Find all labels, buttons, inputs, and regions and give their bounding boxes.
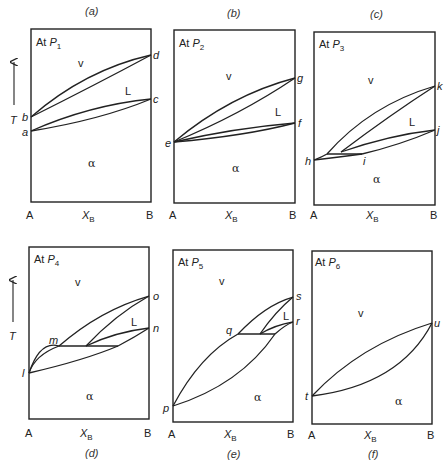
region-solid-alpha: α [254, 391, 262, 404]
axis-label-T: T [10, 114, 18, 126]
liquidus-curve [31, 99, 151, 131]
point-b: b [22, 111, 28, 123]
point-l: l [22, 367, 25, 379]
axis-label-A: A [308, 429, 316, 441]
axis-label-B: B [427, 429, 434, 441]
boiling-curve [341, 86, 435, 152]
point-d: d [153, 49, 160, 61]
point-i: i [363, 155, 366, 167]
region-vapor: v [78, 57, 84, 69]
panel-caption: (d) [85, 447, 99, 459]
region-vapor: v [368, 74, 374, 86]
region-liquid: L [409, 116, 415, 128]
point-p: p [162, 402, 169, 414]
panel-title: At P1 [36, 36, 62, 51]
region-vapor: v [226, 70, 232, 82]
region-vapor: v [358, 307, 364, 319]
liquidus-curve [174, 123, 295, 142]
point-c: c [153, 93, 159, 105]
axis-label-A: A [310, 209, 318, 221]
point-n: n [153, 322, 159, 334]
point-q: q [226, 324, 233, 336]
region-liquid: L [275, 106, 281, 118]
region-liquid: L [283, 310, 289, 322]
region-solid-alpha: α [373, 173, 381, 186]
point-e: e [165, 137, 171, 149]
axis-label-xb: XB [363, 429, 377, 444]
point-r: r [296, 315, 301, 327]
solidus-curve [31, 99, 151, 131]
axis-label-A: A [169, 209, 177, 221]
region-vapor: v [75, 276, 81, 288]
point-m: m [49, 334, 58, 346]
point-j: j [435, 124, 440, 136]
axis-label-T: T [9, 330, 17, 342]
region-solid-alpha: α [88, 157, 96, 170]
panel-title: At P2 [179, 37, 205, 52]
region-solid-alpha: α [86, 390, 94, 403]
panel-a: (a) At P1 v L α b a c d A XB B T [10, 5, 160, 224]
boiling-curve [86, 296, 149, 346]
panel-frame [312, 251, 432, 424]
panel-title: At P6 [315, 256, 341, 271]
solidus-curve [312, 323, 432, 396]
axis-label-B: B [287, 428, 294, 440]
panel-caption: (f) [368, 448, 379, 460]
axis-label-xb: XB [224, 209, 238, 224]
panel-c: (c) At P3 v L α h i j k A XB B [305, 8, 443, 224]
panel-title: At P3 [319, 38, 345, 53]
panel-f: At P6 v α t u A XB B (f) [305, 251, 440, 460]
panel-title: At P5 [178, 256, 204, 271]
region-liquid: L [131, 316, 137, 328]
axis-label-B: B [144, 427, 151, 439]
point-g: g [297, 72, 304, 84]
solidus-curve [174, 123, 295, 142]
panel-caption: (b) [227, 7, 241, 19]
axis-label-xb: XB [79, 427, 93, 442]
point-a: a [22, 126, 28, 138]
point-t: t [305, 390, 309, 402]
solidus-curve [29, 328, 149, 373]
panel-caption: (e) [227, 448, 241, 460]
panel-frame [173, 250, 293, 422]
point-o: o [153, 290, 159, 302]
axis-label-B: B [289, 209, 296, 221]
axis-label-B: B [430, 209, 437, 221]
panel-e: At P5 v L α p q r s A XB B (e) [162, 250, 302, 460]
axis-label-xb: XB [223, 428, 237, 443]
panel-frame [31, 29, 151, 202]
region-solid-alpha: α [232, 162, 240, 175]
panel-caption: (c) [370, 8, 383, 20]
dew-curve [312, 323, 432, 396]
phase-diagram-figure: (a) At P1 v L α b a c d A XB B T (b) At … [0, 0, 447, 470]
axis-label-xb: XB [81, 209, 95, 224]
dew-curve [173, 297, 293, 406]
point-h: h [305, 155, 311, 167]
point-s: s [296, 290, 302, 302]
axis-label-A: A [25, 427, 33, 439]
point-u: u [434, 317, 440, 329]
panel-caption: (a) [85, 5, 99, 17]
axis-label-A: A [26, 209, 34, 221]
point-f: f [298, 117, 302, 129]
panel-d: At P4 v L α l m n o A XB B (d) T [9, 247, 159, 459]
point-k: k [437, 80, 443, 92]
axis-label-B: B [146, 209, 153, 221]
axis-label-xb: XB [365, 209, 379, 224]
axis-label-A: A [168, 428, 176, 440]
dew-curve [314, 86, 435, 160]
panel-title: At P4 [34, 253, 60, 268]
region-solid-alpha: α [395, 395, 403, 408]
panel-b: (b) At P2 v L α e f g A XB B [165, 7, 304, 224]
region-liquid: L [125, 85, 131, 97]
region-vapor: v [219, 275, 225, 287]
boiling-curve [31, 55, 151, 117]
